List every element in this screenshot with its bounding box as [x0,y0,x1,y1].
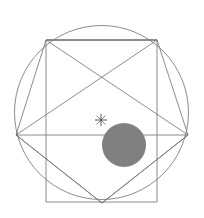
gray-disk [102,123,146,167]
geometric-figure-canvas [0,0,204,218]
geometry-diagram [0,0,204,218]
outer-circle [15,26,189,200]
pentagon-outline [16,40,188,203]
center-cross-marker [95,114,107,126]
pentagram-star [16,40,188,203]
